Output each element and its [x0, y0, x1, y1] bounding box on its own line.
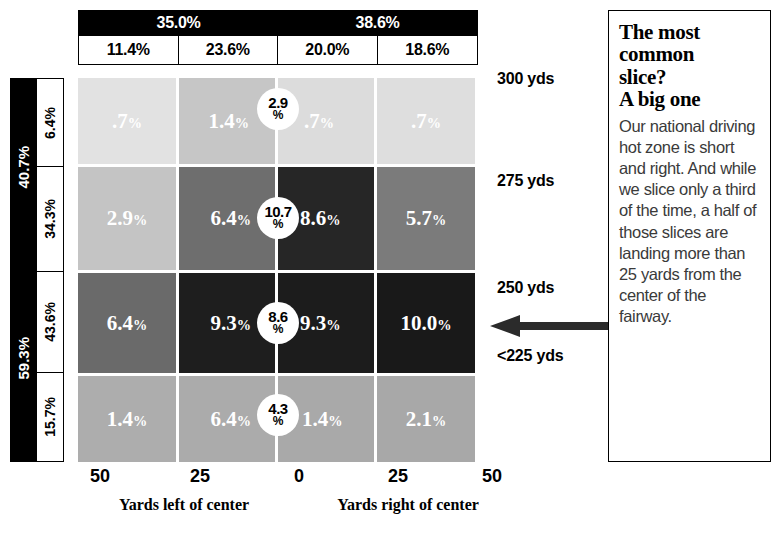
heatmap-cell[interactable]: 5.7% [377, 167, 478, 270]
percent-sign: % [128, 115, 142, 131]
infographic-root: 35.0% 38.6% 11.4% 23.6% 20.0% 18.6% 40.7… [0, 0, 781, 553]
x-tick-2: 0 [294, 466, 304, 487]
row-header-3: 43.6% [37, 272, 63, 373]
x-axis-captions: Yards left of center Yards right of cent… [64, 496, 492, 520]
percent-sign: % [133, 317, 147, 333]
row-header-1-label: 6.4% [42, 107, 58, 139]
x-axis-ticks: 50 25 0 25 50 [64, 466, 492, 490]
distance-label-225: <225 yds [497, 347, 563, 365]
row-group-header-bar: 40.7% 59.3% [10, 78, 37, 462]
x-axis-caption-right: Yards right of center [337, 496, 479, 514]
heatmap-row: 1.4% 6.4% 1.4% 2.1% 4.3 % [78, 376, 478, 462]
percent-sign: % [427, 115, 441, 131]
cell-value: .7% [411, 109, 441, 134]
cell-value: 8.6% [300, 206, 341, 231]
heatmap-row: 6.4% 9.3% 9.3% 10.0% 8.6 % [78, 273, 478, 373]
cell-value: 1.4% [302, 407, 343, 432]
row-header-3-label: 43.6% [42, 302, 58, 342]
column-header-3: 20.0% [278, 36, 378, 64]
row-group-header-bottom: 59.3% [11, 255, 36, 461]
heatmap-cell[interactable]: .7% [377, 78, 478, 164]
row-header-2-label: 34.3% [42, 199, 58, 239]
percent-sign: % [320, 115, 334, 131]
cell-value: 9.3% [210, 311, 251, 336]
cell-value: .7% [304, 109, 334, 134]
callout-headline: The most common slice? A big one [619, 21, 761, 110]
heatmap-row: .7% 1.4% .7% .7% 2.9 % [78, 78, 478, 164]
callout-body: Our national driving hot zone is short a… [619, 116, 761, 327]
x-axis-caption-left: Yards left of center [119, 496, 249, 514]
row-header-4-label: 15.7% [42, 397, 58, 437]
center-badge-unit: % [273, 110, 284, 121]
row-header-1: 6.4% [37, 79, 63, 167]
column-group-header-left: 35.0% [79, 11, 278, 35]
percent-sign: % [237, 317, 251, 333]
row-group-header-top-label: 40.7% [15, 146, 32, 189]
row-header-4: 15.7% [37, 373, 63, 461]
center-badge-unit: % [273, 416, 284, 427]
x-tick-0: 50 [90, 466, 110, 487]
percent-sign: % [432, 212, 446, 228]
callout-arrow [490, 312, 608, 340]
column-header-bar: 11.4% 23.6% 20.0% 18.6% [78, 36, 478, 65]
callout-box: The most common slice? A big one Our nat… [608, 10, 771, 462]
cell-value: 10.0% [400, 311, 451, 336]
row-header-bar: 6.4% 34.3% 43.6% 15.7% [37, 78, 64, 462]
row-header-2: 34.3% [37, 167, 63, 272]
center-badge: 8.6 % [257, 302, 299, 344]
row-group-header-bottom-label: 59.3% [15, 337, 32, 380]
distance-label-250: 250 yds [497, 279, 554, 297]
distance-label-275: 275 yds [497, 172, 554, 190]
column-header-2: 23.6% [179, 36, 279, 64]
heatmap-cell[interactable]: 2.1% [377, 376, 478, 462]
headline-line-1: The most [619, 20, 700, 44]
percent-sign: % [328, 413, 342, 429]
row-group-header-top: 40.7% [11, 79, 36, 255]
heatmap-cell[interactable]: 6.4% [78, 273, 179, 373]
percent-sign: % [326, 212, 340, 228]
distance-label-300: 300 yds [497, 70, 554, 88]
center-badge-unit: % [273, 324, 284, 335]
arrow-left-icon [490, 312, 608, 340]
cell-value: 6.4% [210, 407, 251, 432]
cell-value: 1.4% [208, 109, 249, 134]
center-badge: 10.7 % [257, 197, 299, 239]
percent-sign: % [133, 212, 147, 228]
center-badge-unit: % [273, 219, 284, 230]
percent-sign: % [432, 413, 446, 429]
column-group-header-right: 38.6% [278, 11, 477, 35]
cell-value: .7% [112, 109, 142, 134]
center-badge: 2.9 % [257, 88, 299, 130]
heatmap-cell[interactable]: 10.0% [377, 273, 478, 373]
heatmap-cell[interactable]: .7% [78, 78, 179, 164]
percent-sign: % [133, 413, 147, 429]
cell-value: 5.7% [406, 206, 447, 231]
center-badge: 4.3 % [257, 394, 299, 436]
x-tick-3: 25 [388, 466, 408, 487]
cell-value: 6.4% [107, 311, 148, 336]
column-group-header-bar: 35.0% 38.6% [78, 10, 478, 36]
percent-sign: % [437, 317, 451, 333]
heatmap-row: 2.9% 6.4% 8.6% 5.7% 10.7 % [78, 167, 478, 270]
heatmap-cell[interactable]: 1.4% [78, 376, 179, 462]
headline-line-2: common [619, 42, 694, 66]
x-tick-4: 50 [482, 466, 502, 487]
heatmap-grid: .7% 1.4% .7% .7% 2.9 % 2.9% 6.4% [78, 78, 478, 462]
column-header-4: 18.6% [378, 36, 478, 64]
percent-sign: % [237, 212, 251, 228]
heatmap-cell[interactable]: 2.9% [78, 167, 179, 270]
percent-sign: % [326, 317, 340, 333]
column-header-1: 11.4% [79, 36, 179, 64]
headline-line-3: slice? [619, 65, 666, 89]
cell-value: 2.1% [406, 407, 447, 432]
cell-value: 2.9% [107, 206, 148, 231]
headline-line-4: A big one [619, 87, 700, 111]
x-tick-1: 25 [190, 466, 210, 487]
cell-value: 6.4% [210, 206, 251, 231]
percent-sign: % [237, 413, 251, 429]
cell-value: 1.4% [107, 407, 148, 432]
cell-value: 9.3% [300, 311, 341, 336]
percent-sign: % [235, 115, 249, 131]
